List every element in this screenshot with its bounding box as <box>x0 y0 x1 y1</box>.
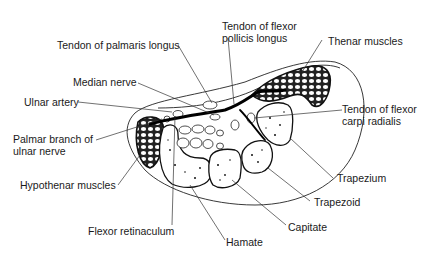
label-palmar-branch-line1: Palmar branch of <box>13 133 93 145</box>
label-tendon-fpl-line2: pollicis longus <box>222 32 287 44</box>
label-palmar-branch-line2: ulnar nerve <box>13 145 66 157</box>
label-median-nerve: Median nerve <box>73 76 137 88</box>
capitate-bone <box>209 149 241 187</box>
label-trapezoid: Trapezoid <box>314 196 360 208</box>
label-hypothenar-muscles: Hypothenar muscles <box>20 179 116 191</box>
label-thenar-muscles: Thenar muscles <box>328 35 403 47</box>
thenar-muscles <box>252 66 330 107</box>
label-ulnar-artery: Ulnar artery <box>24 96 80 108</box>
trapezium-bone <box>257 103 293 145</box>
label-hamate: Hamate <box>226 236 263 248</box>
palmaris-longus-tendon <box>203 101 217 109</box>
label-capitate: Capitate <box>288 221 327 233</box>
label-tendon-fcr-line2: carpi radialis <box>342 115 401 127</box>
label-tendon-fpl-line1: Tendon of flexor <box>222 20 297 32</box>
flexor-tendons <box>177 120 239 149</box>
label-trapezium: Trapezium <box>337 172 386 184</box>
wrist-cross-section-diagram: Tendon of palmaris longus Tendon of flex… <box>0 0 425 257</box>
median-nerve <box>210 114 220 120</box>
label-tendon-fcr-line1: Tendon of flexor <box>342 103 417 115</box>
label-flexor-retinaculum: Flexor retinaculum <box>88 225 175 237</box>
trapezoid-bone <box>242 141 273 173</box>
label-tendon-palmaris-longus: Tendon of palmaris longus <box>57 39 180 51</box>
